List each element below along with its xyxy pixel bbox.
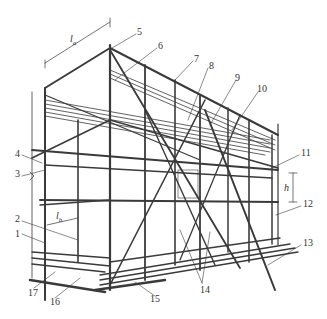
callout-8: 8 — [209, 61, 214, 71]
callout-11: 11 — [301, 148, 311, 158]
callout-15: 15 — [150, 294, 160, 304]
dimension-bay-length: la — [70, 34, 76, 48]
dimension-bay-width: lb — [56, 211, 62, 225]
callout-12: 12 — [303, 199, 313, 209]
scaffold-drawing — [0, 0, 327, 319]
callout-1: 1 — [15, 229, 20, 239]
callout-2: 2 — [15, 214, 20, 224]
scaffold-diagram: la lb h 1 2 3 4 5 6 7 8 9 10 11 12 13 14… — [0, 0, 327, 319]
dim-la-sub: a — [73, 39, 77, 47]
callout-9: 9 — [235, 73, 240, 83]
callout-14: 14 — [200, 285, 210, 295]
callout-10: 10 — [257, 84, 267, 94]
callout-6: 6 — [158, 41, 163, 51]
dim-lb-sub: b — [59, 216, 63, 224]
callout-3: 3 — [15, 169, 20, 179]
callout-4: 4 — [15, 149, 20, 159]
dim-h: h — [284, 182, 289, 193]
callout-5: 5 — [137, 27, 142, 37]
callout-7: 7 — [194, 54, 199, 64]
dimension-lift-height: h — [284, 183, 289, 193]
callout-13: 13 — [303, 238, 313, 248]
callout-17: 17 — [28, 288, 38, 298]
callout-16: 16 — [50, 297, 60, 307]
